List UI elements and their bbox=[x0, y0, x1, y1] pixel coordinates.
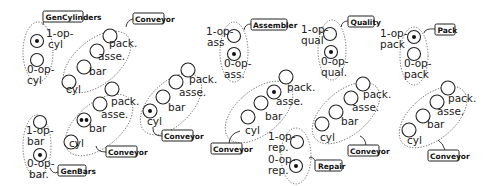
token bbox=[35, 39, 39, 43]
place-label: asse. bbox=[101, 108, 128, 120]
token bbox=[148, 109, 152, 113]
place-label: pack. bbox=[448, 92, 476, 104]
place-label: cyl bbox=[407, 134, 422, 146]
component-tag-label: Pack bbox=[438, 26, 459, 35]
component-tag-label: Repair bbox=[318, 162, 346, 171]
token bbox=[85, 118, 89, 122]
place-label: cyl bbox=[69, 137, 84, 149]
component-tag-label: Conveyor bbox=[164, 132, 204, 141]
place-cyl bbox=[241, 110, 255, 124]
place-label: cyl bbox=[66, 83, 81, 95]
component-tag-label: GenCylinders bbox=[46, 13, 103, 22]
place-label: cyl bbox=[48, 38, 63, 50]
place-label: bar bbox=[89, 65, 107, 77]
place-label: bar bbox=[265, 110, 283, 122]
component-tag-label: Conveyor bbox=[108, 148, 148, 157]
callout-arrow bbox=[341, 21, 348, 27]
callout-arrow bbox=[438, 140, 445, 150]
token bbox=[232, 52, 236, 56]
place-label: bar bbox=[341, 115, 359, 127]
place-label: asse. bbox=[437, 105, 464, 117]
place-label: asse. bbox=[179, 86, 206, 98]
place-label: bar bbox=[27, 135, 45, 147]
place-pack bbox=[105, 82, 119, 96]
component-quality: 1-op- qual 0-op- qual. Quality bbox=[301, 16, 381, 80]
component-tag-label: Quality bbox=[351, 18, 382, 27]
place-label: asse. bbox=[276, 95, 303, 107]
component-conveyor-6: cyl bar asse. pack. Conveyor bbox=[388, 74, 478, 161]
component-boundary bbox=[388, 74, 478, 159]
component-tag-label: GenBars bbox=[61, 167, 97, 176]
place-label: qual bbox=[301, 34, 324, 46]
component-tag-label: Assembler bbox=[253, 21, 298, 30]
place-bar bbox=[254, 96, 268, 110]
place-label: cyl bbox=[245, 124, 260, 136]
place-label: rep. bbox=[268, 164, 289, 176]
component-tag-label: Conveyor bbox=[430, 152, 470, 161]
place-label: asse. bbox=[352, 101, 379, 113]
component-tag-label: Conveyor bbox=[350, 147, 390, 156]
callout-arrow bbox=[126, 19, 133, 27]
place-label: pack. bbox=[287, 81, 315, 93]
place-label: pack bbox=[380, 38, 406, 50]
component-conveyor-3: cyl bar asse. pack. Conveyor bbox=[129, 62, 217, 145]
place-label: bar bbox=[168, 101, 186, 113]
place-label: pack. bbox=[189, 73, 217, 85]
callout-arrow bbox=[360, 136, 366, 145]
place-label: cyl bbox=[320, 131, 335, 143]
place-label: bar bbox=[427, 118, 445, 130]
callout-arrow bbox=[153, 127, 162, 136]
place-label: ass. bbox=[224, 68, 245, 80]
component-tag-label: Conveyor bbox=[213, 145, 253, 154]
callout-arrow bbox=[96, 146, 106, 152]
callout-arrow bbox=[244, 24, 251, 30]
place-label: cyl bbox=[27, 74, 42, 86]
place-label: qual. bbox=[321, 66, 347, 78]
component-pack: 1-op- pack 0-op- pack Pack bbox=[380, 24, 458, 85]
place-label: cyl bbox=[147, 115, 162, 127]
place-cyl bbox=[315, 117, 329, 131]
token bbox=[272, 90, 276, 94]
place-label: ass bbox=[207, 36, 224, 48]
token bbox=[329, 50, 333, 54]
place-label: rep. bbox=[268, 141, 289, 153]
place-label: pack. bbox=[109, 37, 137, 49]
component-tag-label: Conveyor bbox=[135, 15, 175, 24]
place-label: pack bbox=[404, 68, 430, 80]
place-label: bar bbox=[89, 122, 107, 134]
callout-arrow bbox=[229, 131, 240, 144]
place-label: asse. bbox=[98, 50, 125, 62]
place-label: pack. bbox=[363, 88, 391, 100]
token bbox=[80, 118, 84, 122]
petri-net-diagram: 1-op- cyl 0-op- cyl GenCylinders cyl bar… bbox=[0, 0, 495, 186]
token bbox=[412, 35, 416, 39]
place-label: bar. bbox=[29, 168, 49, 180]
callout-arrow bbox=[424, 29, 435, 33]
place-label: pack. bbox=[111, 95, 139, 107]
